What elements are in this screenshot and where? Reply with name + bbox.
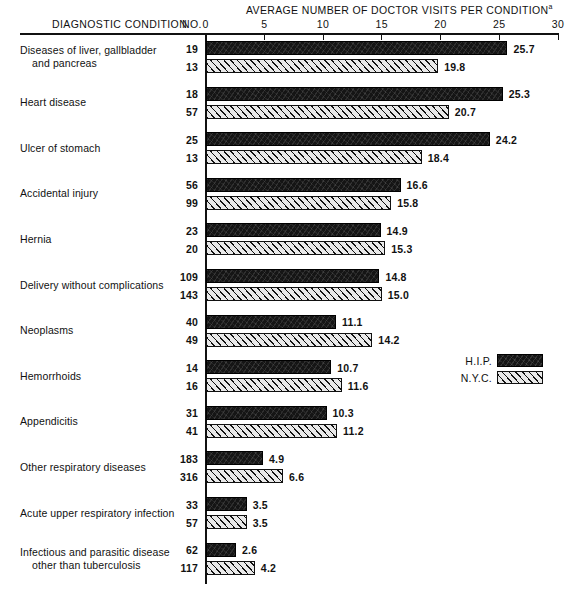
bar-nyc <box>206 196 392 210</box>
x-axis-tick-label: 5 <box>261 18 267 30</box>
bar-value-nyc: 6.6 <box>289 471 304 483</box>
row-count-nyc: 316 <box>168 471 198 483</box>
bar-value-hip: 14.8 <box>385 271 406 283</box>
bar-hip <box>206 543 237 557</box>
row-count-hip: 14 <box>168 362 198 374</box>
row-label-line-1: Other respiratory diseases <box>20 461 146 474</box>
bar-value-hip: 3.5 <box>253 499 268 511</box>
x-axis-tick-label: 30 <box>552 18 564 30</box>
bar-value-hip: 11.1 <box>342 316 363 328</box>
row-label-line-1: Hemorrhoids <box>20 370 81 383</box>
row-label: Acute upper respiratory infection <box>20 507 174 520</box>
row-label: Delivery without complications <box>20 279 164 292</box>
bar-value-hip: 25.7 <box>513 43 534 55</box>
axis-title-text: AVERAGE NUMBER OF DOCTOR VISITS PER COND… <box>246 4 548 16</box>
row-label-line-2: and pancreas <box>20 57 157 70</box>
row-count-hip: 62 <box>168 544 198 556</box>
bar-hip <box>206 223 381 237</box>
legend-label-hip: H.I.P. <box>448 355 492 367</box>
bar-nyc <box>206 241 386 255</box>
legend-swatch-hip <box>497 354 543 367</box>
row-label: Other respiratory diseases <box>20 461 146 474</box>
bar-value-hip: 10.7 <box>337 362 358 374</box>
row-label-line-1: Ulcer of stomach <box>20 142 100 155</box>
x-axis-tick-label: 0 <box>202 18 208 30</box>
bar-hip <box>206 41 508 55</box>
row-label-line-1: Appendicitis <box>20 415 78 428</box>
footnote-marker: a <box>548 3 552 10</box>
x-axis-tick-label: 25 <box>493 18 505 30</box>
bar-value-nyc: 11.2 <box>343 425 364 437</box>
row-count-hip: 56 <box>168 179 198 191</box>
axis-horizontal-rule <box>20 33 559 35</box>
bar-hip <box>206 132 490 146</box>
row-count-nyc: 13 <box>168 61 198 73</box>
row-count-nyc: 16 <box>168 380 198 392</box>
row-label: Hemorrhoids <box>20 370 81 383</box>
bar-nyc <box>206 150 422 164</box>
bar-nyc <box>206 333 373 347</box>
row-label-line-1: Heart disease <box>20 96 86 109</box>
row-count-nyc: 13 <box>168 152 198 164</box>
row-count-hip: 25 <box>168 134 198 146</box>
bar-value-hip: 16.6 <box>407 179 428 191</box>
bar-hip <box>206 451 264 465</box>
row-label: Diseases of liver, gallbladder and pancr… <box>20 44 157 70</box>
row-label: Infectious and parasitic disease other t… <box>20 546 170 572</box>
row-count-hip: 40 <box>168 316 198 328</box>
row-count-hip: 23 <box>168 225 198 237</box>
bar-value-hip: 14.9 <box>387 225 408 237</box>
legend-label-nyc: N.Y.C. <box>448 372 492 384</box>
bar-hip <box>206 269 380 283</box>
bar-value-hip: 25.3 <box>509 88 530 100</box>
bar-hip <box>206 360 332 374</box>
bar-nyc <box>206 424 338 438</box>
row-count-nyc: 57 <box>168 517 198 529</box>
x-axis-tick-label: 15 <box>376 18 388 30</box>
row-label-line-1: Neoplasms <box>20 324 73 337</box>
bar-value-hip: 24.2 <box>496 134 517 146</box>
bar-value-hip: 2.6 <box>242 544 257 556</box>
chart-container: AVERAGE NUMBER OF DOCTOR VISITS PER COND… <box>0 0 579 597</box>
row-count-hip: 19 <box>168 43 198 55</box>
row-label-line-1: Accidental injury <box>20 187 98 200</box>
bar-nyc <box>206 59 439 73</box>
row-count-hip: 18 <box>168 88 198 100</box>
bar-value-nyc: 18.4 <box>428 152 449 164</box>
bar-value-nyc: 3.5 <box>253 517 268 529</box>
row-label-line-1: Hernia <box>20 233 52 246</box>
row-label: Ulcer of stomach <box>20 142 100 155</box>
bar-nyc <box>206 105 449 119</box>
row-label: Heart disease <box>20 96 86 109</box>
column-header-condition: DIAGNOSTIC CONDITION <box>52 18 187 30</box>
x-axis-tick-label: 20 <box>434 18 446 30</box>
row-count-nyc: 41 <box>168 425 198 437</box>
bar-value-nyc: 15.0 <box>388 289 409 301</box>
row-label-line-2: other than tuberculosis <box>20 559 170 572</box>
row-count-hip: 33 <box>168 499 198 511</box>
row-count-hip: 183 <box>168 453 198 465</box>
column-header-number: NO. <box>182 18 202 30</box>
bar-value-nyc: 19.8 <box>444 61 465 73</box>
bar-hip <box>206 87 503 101</box>
row-label: Hernia <box>20 233 52 246</box>
row-label: Appendicitis <box>20 415 78 428</box>
bar-nyc <box>206 561 255 575</box>
bar-nyc <box>206 515 247 529</box>
bar-value-nyc: 11.6 <box>348 380 369 392</box>
row-label-line-1: Acute upper respiratory infection <box>20 507 174 520</box>
row-label: Accidental injury <box>20 187 98 200</box>
row-label-line-1: Diseases of liver, gallbladder <box>20 44 157 57</box>
row-count-nyc: 57 <box>168 106 198 118</box>
bar-hip <box>206 315 336 329</box>
bar-nyc <box>206 287 382 301</box>
bar-hip <box>206 406 327 420</box>
bar-value-nyc: 15.8 <box>397 197 418 209</box>
bar-hip <box>206 178 401 192</box>
bar-value-nyc: 4.2 <box>261 562 276 574</box>
bar-value-hip: 10.3 <box>333 407 354 419</box>
x-axis-tick-label: 10 <box>317 18 329 30</box>
bar-value-hip: 4.9 <box>269 453 284 465</box>
bar-value-nyc: 14.2 <box>378 334 399 346</box>
row-count-nyc: 143 <box>168 289 198 301</box>
